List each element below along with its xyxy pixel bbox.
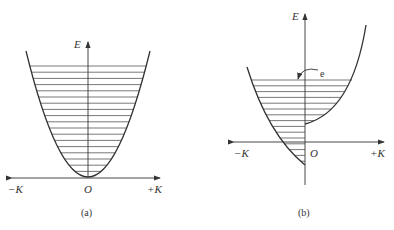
- panel-b: E e −K O +K (b): [234, 10, 385, 219]
- diagram-canvas: E −K O +K (a) E e −K O +K (b): [0, 0, 394, 230]
- caption-b: (b): [298, 207, 310, 219]
- neg-k-label-a: −K: [8, 183, 23, 195]
- electron-label-b: e: [320, 68, 325, 79]
- origin-label-b: O: [310, 147, 318, 159]
- neg-k-label-b: −K: [234, 147, 249, 159]
- electron-arrow-b: [298, 69, 318, 79]
- origin-label-a: O: [84, 183, 92, 195]
- caption-a: (a): [81, 207, 92, 219]
- left-branch-b: [247, 67, 305, 165]
- panel-a: E −K O +K (a): [8, 38, 162, 219]
- pos-k-label-b: +K: [370, 147, 385, 159]
- energy-label-a: E: [73, 38, 81, 50]
- energy-level-lines-b: [251, 80, 352, 161]
- energy-label-b: E: [291, 10, 299, 22]
- pos-k-label-a: +K: [147, 183, 162, 195]
